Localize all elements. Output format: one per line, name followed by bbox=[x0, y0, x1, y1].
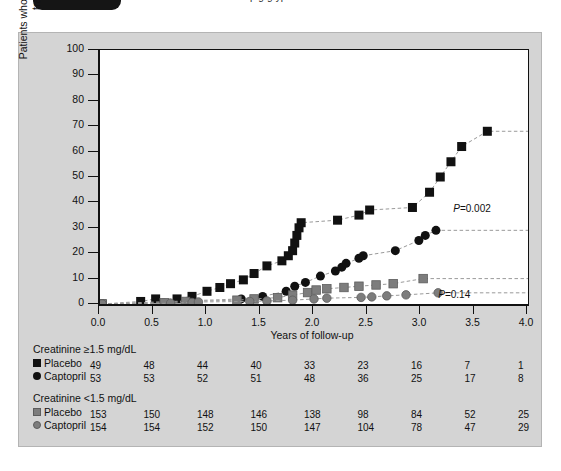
y-tick-label: 100 bbox=[56, 43, 84, 53]
marker-circle bbox=[431, 226, 440, 235]
risk-count-value: 16 bbox=[411, 360, 441, 371]
risk-count-value: 152 bbox=[197, 422, 227, 433]
plot-area bbox=[98, 49, 529, 306]
risk-count-value: 48 bbox=[144, 360, 174, 371]
risk-count-value: 33 bbox=[304, 360, 334, 371]
y-tick-mark bbox=[88, 252, 98, 253]
y-tick-mark bbox=[88, 100, 98, 101]
marker-square bbox=[233, 296, 242, 304]
marker-circle bbox=[288, 296, 297, 304]
x-tick-mark bbox=[526, 305, 527, 314]
risk-count-value: 52 bbox=[465, 409, 495, 420]
risk-count-value: 150 bbox=[251, 422, 281, 433]
risk-group-title: Creatinine <1.5 mg/dL bbox=[33, 392, 137, 404]
y-tick-mark bbox=[88, 201, 98, 202]
square-marker-icon bbox=[33, 359, 41, 367]
marker-square bbox=[365, 206, 374, 215]
risk-row-label: Captopril bbox=[44, 419, 86, 431]
risk-count-value: 150 bbox=[144, 409, 174, 420]
risk-count-value: 44 bbox=[197, 360, 227, 371]
risk-count-value: 146 bbox=[251, 409, 281, 420]
risk-row-label: Placebo bbox=[44, 406, 82, 418]
risk-count-value: 52 bbox=[197, 373, 227, 384]
marker-square bbox=[419, 274, 428, 283]
x-tick-label: 1.5 bbox=[239, 316, 279, 328]
marker-circle bbox=[194, 298, 203, 304]
x-tick-label: 0.0 bbox=[78, 316, 118, 328]
marker-square bbox=[333, 216, 342, 225]
marker-square bbox=[203, 287, 212, 296]
marker-square bbox=[262, 261, 271, 270]
risk-row-label: Captopril bbox=[44, 370, 86, 382]
y-tick-label: 70 bbox=[56, 119, 84, 129]
risk-row-label: Placebo bbox=[44, 357, 82, 369]
y-tick-mark bbox=[88, 49, 98, 50]
clipped-caption-text: pig g yp bbox=[250, 0, 287, 2]
y-tick-label: 50 bbox=[56, 170, 84, 180]
y-tick-label: 40 bbox=[56, 195, 84, 205]
y-tick-label: 30 bbox=[56, 221, 84, 231]
marker-square bbox=[446, 157, 455, 166]
y-tick-mark bbox=[88, 176, 98, 177]
risk-count-value: 53 bbox=[144, 373, 174, 384]
clipped-header-strip: pig g yp bbox=[0, 0, 561, 14]
risk-count-value: 53 bbox=[90, 373, 120, 384]
x-tick-label: 0.5 bbox=[132, 316, 172, 328]
marker-square bbox=[340, 283, 349, 292]
risk-count-value: 154 bbox=[144, 422, 174, 433]
risk-count-value: 17 bbox=[465, 373, 495, 384]
x-tick-mark bbox=[366, 305, 367, 314]
marker-circle bbox=[359, 251, 368, 260]
x-tick-mark bbox=[419, 305, 420, 314]
circle-marker-icon bbox=[33, 372, 41, 380]
figure-inner: Patients who died or needed dialysis or … bbox=[19, 33, 541, 446]
marker-square bbox=[457, 142, 466, 151]
risk-count-value: 8 bbox=[518, 373, 548, 384]
marker-square bbox=[297, 218, 306, 227]
risk-count-value: 98 bbox=[358, 409, 388, 420]
y-tick-mark bbox=[88, 125, 98, 126]
series-0 bbox=[100, 127, 528, 304]
marker-square bbox=[226, 279, 235, 288]
risk-count-value: 47 bbox=[465, 422, 495, 433]
marker-square bbox=[303, 288, 312, 297]
y-tick-label: 0 bbox=[56, 297, 84, 307]
marker-square bbox=[389, 279, 398, 288]
marker-square bbox=[372, 281, 381, 290]
y-tick-mark bbox=[88, 278, 98, 279]
y-axis-title: Patients who died or needed dialysis or … bbox=[17, 0, 43, 73]
y-tick-label: 60 bbox=[56, 145, 84, 155]
p-value-annotation: P=0.14 bbox=[438, 289, 470, 300]
risk-count-value: 25 bbox=[411, 373, 441, 384]
x-axis-title: Years of follow-up bbox=[98, 329, 526, 341]
marker-circle bbox=[290, 282, 299, 291]
marker-square bbox=[355, 282, 364, 291]
x-tick-mark bbox=[98, 305, 99, 314]
figure-panel: Patients who died or needed dialysis or … bbox=[18, 32, 542, 447]
risk-count-value: 84 bbox=[411, 409, 441, 420]
x-tick-mark bbox=[205, 305, 206, 314]
marker-circle bbox=[342, 259, 351, 268]
square-marker-icon bbox=[33, 408, 41, 416]
y-tick-mark bbox=[88, 151, 98, 152]
risk-group-title: Creatinine ≥1.5 mg/dL bbox=[33, 343, 136, 355]
x-tick-mark bbox=[312, 305, 313, 314]
marker-circle bbox=[357, 293, 366, 302]
y-tick-label: 10 bbox=[56, 272, 84, 282]
x-tick-label: 4.0 bbox=[506, 316, 546, 328]
y-tick-mark bbox=[88, 303, 98, 304]
risk-count-value: 29 bbox=[518, 422, 548, 433]
marker-square bbox=[483, 127, 492, 136]
marker-circle bbox=[310, 295, 319, 304]
x-tick-label: 3.5 bbox=[453, 316, 493, 328]
marker-circle bbox=[383, 292, 392, 301]
marker-circle bbox=[391, 246, 400, 255]
marker-circle bbox=[301, 278, 310, 287]
marker-square bbox=[425, 188, 434, 197]
risk-count-value: 25 bbox=[518, 409, 548, 420]
x-tick-label: 3.0 bbox=[399, 316, 439, 328]
marker-square bbox=[436, 173, 445, 182]
y-tick-label: 80 bbox=[56, 94, 84, 104]
y-tick-mark bbox=[88, 227, 98, 228]
p-value-annotation: P=0.002 bbox=[453, 203, 491, 214]
